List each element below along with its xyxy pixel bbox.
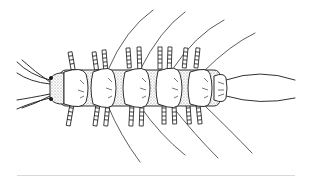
body: [49, 68, 227, 107]
bottom-divider: [17, 175, 295, 176]
cerci: [226, 74, 295, 102]
antennae: [17, 60, 50, 109]
arthropod-illustration: [0, 0, 310, 177]
